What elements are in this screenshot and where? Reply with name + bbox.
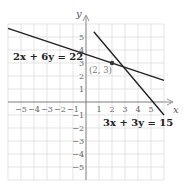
- y-tick-label: −3: [72, 137, 84, 146]
- y-axis-label: y: [75, 8, 82, 19]
- x-tick-label: 3: [122, 105, 127, 114]
- x-tick-label: 5: [148, 105, 153, 114]
- y-tick-label: −4: [72, 150, 84, 159]
- x-tick-label: 4: [135, 105, 140, 114]
- x-tick-label: −2: [54, 105, 66, 114]
- axes: [8, 15, 173, 180]
- x-tick-label: −4: [28, 105, 40, 114]
- intersection-point-label: (2, 3): [89, 65, 112, 75]
- x-tick-label: 1: [96, 105, 101, 114]
- y-tick-label: 2: [79, 72, 84, 81]
- y-tick-label: −1: [72, 111, 84, 120]
- equation-label-2: 3x + 3y = 15: [103, 117, 173, 128]
- y-tick-label: 5: [79, 33, 84, 42]
- y-tick-label: 1: [79, 85, 84, 94]
- equation-label-1: 2x + 6y = 22: [13, 51, 83, 62]
- x-tick-label: −3: [41, 105, 53, 114]
- x-tick-label: −5: [15, 105, 27, 114]
- y-tick-label: −5: [72, 163, 84, 172]
- chart-canvas: −5−4−3−2−11234554321−1−2−3−4−5 y x 2x + …: [0, 0, 191, 195]
- x-axis-label: x: [173, 104, 179, 115]
- y-tick-label: −2: [72, 124, 84, 133]
- x-tick-label: 2: [109, 105, 114, 114]
